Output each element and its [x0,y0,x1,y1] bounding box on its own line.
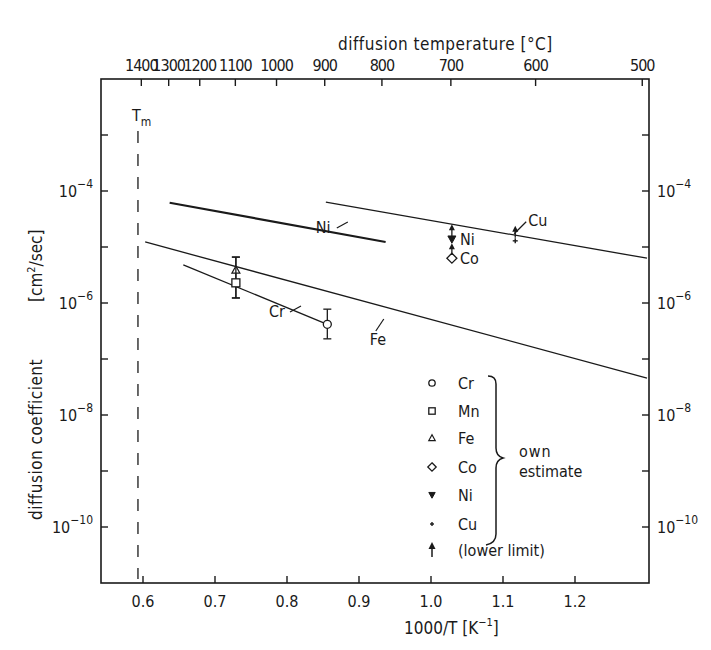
series-label-ni: Ni [316,218,331,237]
legend-entry: Cr [429,374,474,393]
x-tick-label: 1.1 [492,592,515,611]
legend-entry: (lower limit) [429,541,545,560]
legend-entry: Co [428,458,477,477]
legend-label: Ni [458,486,473,505]
top-axis-title: diffusion temperature [°C] [338,34,553,54]
x-tick-label: 1.2 [564,592,587,611]
point-label-co: Co [460,249,479,268]
square-marker [232,279,240,287]
y-tick-label-left: 10−6 [59,289,93,313]
svg-text:[cm2/sec]: [cm2/sec] [25,230,46,303]
point-label-ni: Ni [460,230,475,249]
square-marker [429,408,435,414]
svg-text:diffusion coefficient: diffusion coefficient [26,359,46,520]
x-axis-title: 1000/T [K−1] [404,616,499,638]
legend-brace-label-line2: estimate [519,462,582,481]
legend: CrMnFeCoNiCu(lower limit)ownestimate [428,374,583,560]
series-line-fe [145,242,647,378]
lower-limit-arrowhead [512,226,518,232]
y-tick-label-left: 10−8 [59,401,93,425]
diamond-marker [447,253,457,263]
top-x-tick-label: 900 [312,56,337,75]
arrow-up-marker [429,542,436,557]
plus-marker [430,522,434,526]
series-line-ni [170,203,386,242]
top-x-tick-label: 800 [370,56,395,75]
legend-label: (lower limit) [458,541,545,560]
data-points: NiCo [232,224,518,339]
x-tick-label: 0.6 [132,592,155,611]
top-x-tick-label: 1300 [152,56,185,75]
y-tick-label-right: 10−4 [657,177,691,201]
y-tick-label-right: 10−8 [657,401,691,425]
legend-entry: Mn [429,402,480,421]
y-tick-label-right: 10−6 [657,289,691,313]
lower-limit-arrowhead [449,243,455,249]
legend-brace [486,376,503,545]
legend-entry: Cu [430,515,477,534]
x-tick-label: 0.7 [204,592,227,611]
x-tick-label: 1.0 [420,592,443,611]
top-x-tick-label: 700 [439,56,464,75]
legend-label: Fe [458,429,474,448]
legend-entry: Fe [429,429,475,448]
series-leader [337,222,348,228]
plus-marker [513,238,518,243]
series-label-cu: Cu [528,211,547,230]
legend-label: Cu [458,515,477,534]
circle-marker [323,320,331,328]
triangle-down-marker [448,236,456,243]
top-x-tick-label: 1200 [183,56,216,75]
legend-label: Mn [458,402,480,421]
series-lines: NiCuFeCr [145,202,647,378]
legend-label: Cr [458,374,474,393]
triangle-up-marker [429,435,435,441]
legend-entry: Ni [429,486,473,505]
top-x-tick-label: 600 [523,56,548,75]
legend-label: Co [458,458,477,477]
x-tick-label: 0.8 [276,592,299,611]
y-tick-label-left: 10−4 [59,177,93,201]
legend-brace-label-line1: own [519,442,552,461]
series-label-fe: Fe [370,330,386,349]
x-tick-label: 0.9 [348,592,371,611]
arrow-head [429,542,436,549]
series-label-cr: Cr [269,302,285,321]
y-axis-title: diffusion coefficient [cm2/sec] [25,230,46,521]
top-x-tick-label: 1000 [260,56,293,75]
y-tick-label-right: 10−10 [657,513,698,537]
y-tick-label-left: 10−10 [52,513,93,537]
top-x-tick-label: 1100 [219,56,252,75]
diamond-marker [428,463,436,471]
triangle-down-marker [429,492,435,498]
melting-point-label: Tm [131,106,151,129]
x-axis-title-text: 1000/T [K [404,618,479,638]
diffusion-chart: 0.60.70.80.91.01.11.21400130012001100100… [0,0,711,650]
series-line-cr [183,265,327,324]
series-line-cu [326,202,647,258]
circle-marker [429,380,435,386]
top-x-tick-label: 500 [630,56,655,75]
